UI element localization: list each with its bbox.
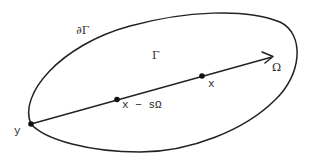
diagram-canvas: ∂Γ Γ Ω x x − sΩ y	[0, 0, 313, 156]
boundary-label: ∂Γ	[76, 25, 89, 36]
boundary-curve	[29, 13, 297, 152]
ray-line	[31, 57, 272, 124]
domain-label: Γ	[152, 50, 160, 61]
point-x-dot	[199, 73, 205, 79]
point-x-label: x	[208, 79, 215, 90]
point-shifted-dot	[114, 97, 120, 103]
diagram-svg	[0, 0, 313, 156]
point-y-label: y	[14, 126, 21, 137]
direction-label: Ω	[272, 62, 281, 73]
point-y-dot	[28, 121, 34, 127]
point-shifted-label: x − sΩ	[122, 100, 162, 111]
